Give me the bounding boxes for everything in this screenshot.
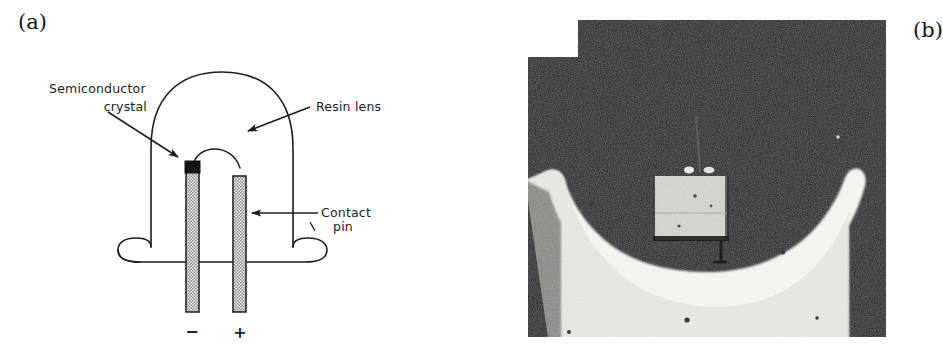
led-package-outline (118, 72, 327, 262)
semiconductor-crystal-chip (185, 161, 200, 173)
led-cross-section-drawing: Semiconductor crystal Resin lens Contact… (0, 0, 445, 357)
resin-lens-dome (151, 72, 293, 247)
semiconductor-chip-edge-right (725, 176, 729, 240)
semiconductor-chip (653, 176, 729, 241)
resin-lens-label: Resin lens (316, 99, 381, 114)
panel-a-diagram: (a) (0, 0, 445, 357)
bond-ball-left (684, 167, 694, 174)
led-chip-macro-photo (465, 0, 889, 357)
polarity-positive-symbol: + (233, 323, 246, 342)
photo-frame (465, 0, 889, 357)
semiconductor-chip-edge-bottom (653, 236, 729, 241)
contact-pin-label-line2: pin (333, 219, 353, 234)
base-flange (118, 238, 327, 262)
bond-ball-right (704, 167, 715, 173)
semiconductor-crystal-label-line1: Semiconductor (49, 81, 146, 96)
stray-tick-mark (310, 222, 315, 231)
semiconductor-chip-body (655, 176, 727, 240)
contact-pin-cathode (186, 170, 199, 312)
base-flange-front-edge (118, 250, 140, 262)
photo-dust-speck (836, 135, 840, 139)
polarity-negative-symbol: − (185, 322, 198, 341)
panel-b-label: (b) (913, 20, 943, 41)
resin-lens-leader-line (248, 107, 310, 131)
panel-b-photograph: (b) (445, 0, 889, 357)
photo-content (520, 14, 889, 344)
contact-pins (186, 170, 246, 312)
semiconductor-crystal-label-line2: crystal (104, 99, 147, 114)
semiconductor-crystal-leader-line (108, 112, 178, 157)
contact-pin-label-line1: Contact (321, 205, 371, 220)
contact-pin-anode (233, 176, 246, 312)
